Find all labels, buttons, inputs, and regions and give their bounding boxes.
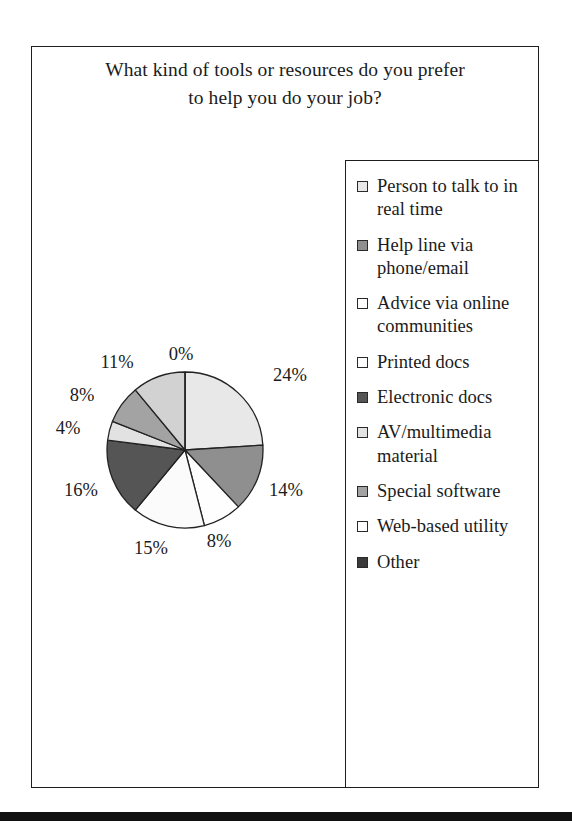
pie-data-label: 4%	[56, 418, 81, 439]
legend-item-label: Special software	[377, 480, 501, 503]
chart-title-line-1: What kind of tools or resources do you p…	[40, 56, 530, 84]
pie-data-label: 16%	[64, 480, 98, 501]
legend-swatch-icon	[357, 486, 368, 497]
pie-data-label: 0%	[169, 344, 194, 365]
chart-title-line-2: to help you do your job?	[40, 84, 530, 112]
legend-item[interactable]: Person to talk to in real time	[357, 175, 532, 222]
legend-list: Person to talk to in real timeHelp line …	[346, 161, 538, 586]
legend: Person to talk to in real timeHelp line …	[345, 160, 538, 788]
legend-swatch-icon	[357, 392, 368, 403]
legend-swatch-icon	[357, 427, 368, 438]
pie-chart: 24%14%8%15%16%4%8%11%0%	[38, 300, 338, 600]
legend-item[interactable]: Other	[357, 551, 532, 574]
legend-item[interactable]: Advice via online communities	[357, 292, 532, 339]
pie-data-label: 8%	[70, 385, 95, 406]
pie-data-label: 8%	[207, 531, 232, 552]
legend-item[interactable]: Web-based utility	[357, 515, 532, 538]
pie-data-label: 24%	[273, 365, 307, 386]
legend-swatch-icon	[357, 298, 368, 309]
legend-swatch-icon	[357, 357, 368, 368]
legend-swatch-icon	[357, 557, 368, 568]
pie-data-label: 14%	[269, 480, 303, 501]
legend-item[interactable]: Help line via phone/email	[357, 234, 532, 281]
pie-data-label: 11%	[100, 352, 133, 373]
legend-swatch-icon	[357, 521, 368, 532]
chart-title: What kind of tools or resources do you p…	[40, 56, 530, 111]
pie-slice-group	[107, 372, 263, 528]
legend-item-label: Advice via online communities	[377, 292, 532, 339]
legend-item-label: Other	[377, 551, 419, 574]
legend-swatch-icon	[357, 240, 368, 251]
legend-item[interactable]: Special software	[357, 480, 532, 503]
legend-item-label: Web-based utility	[377, 515, 508, 538]
legend-item-label: AV/multimedia material	[377, 421, 532, 468]
page-bottom-rule	[0, 812, 572, 821]
legend-item-label: Person to talk to in real time	[377, 175, 532, 222]
legend-item-label: Printed docs	[377, 351, 470, 374]
legend-item-label: Help line via phone/email	[377, 234, 532, 281]
legend-item[interactable]: Printed docs	[357, 351, 532, 374]
pie-slice[interactable]	[185, 372, 263, 450]
legend-item-label: Electronic docs	[377, 386, 492, 409]
pie-data-label: 15%	[134, 538, 168, 559]
legend-item[interactable]: AV/multimedia material	[357, 421, 532, 468]
legend-item[interactable]: Electronic docs	[357, 386, 532, 409]
legend-swatch-icon	[357, 181, 368, 192]
